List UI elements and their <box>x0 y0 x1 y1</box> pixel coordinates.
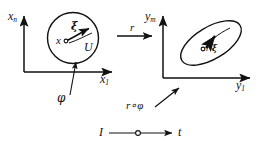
index-point-marker <box>136 131 141 136</box>
left-horizontal-axis-label: x1 <box>100 73 109 86</box>
composition-label: r∘φ <box>126 100 143 111</box>
right-vertical-axis-label: ym <box>145 10 156 23</box>
neighbourhood-label-u: U <box>84 41 93 53</box>
image-point-marker <box>201 47 205 51</box>
tangent-vector-label-xi: ξ <box>71 21 78 32</box>
index-end-label: t <box>178 126 181 138</box>
image-vector-label: r·ξ <box>206 44 217 53</box>
map-arrow-label-r: r <box>130 22 134 33</box>
left-vertical-axis-label: xn <box>8 10 17 23</box>
phi-pointer-arrow <box>70 62 76 95</box>
index-start-label: I <box>99 126 103 138</box>
right-horizontal-axis-label: y1 <box>236 79 245 92</box>
index-line <box>109 131 172 136</box>
figure-canvas: xn x1 x ξ U φ r ym y1 r·ξ r∘φ I t <box>0 0 264 152</box>
composition-arrow <box>155 88 179 107</box>
base-point-label-x: x <box>56 35 61 46</box>
curve-label-phi: φ <box>57 92 65 104</box>
